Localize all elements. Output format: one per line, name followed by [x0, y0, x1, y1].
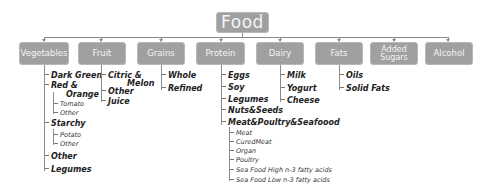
- protein-eggs: Eggs: [222, 72, 250, 80]
- category-label: Grains: [147, 49, 174, 58]
- grains-whole: Whole: [162, 72, 196, 80]
- protein-organ: Organ: [230, 148, 256, 155]
- category-label: Alcohol: [434, 49, 465, 58]
- category-label: Dairy: [269, 49, 292, 58]
- protein-seafood-low: Sea Food Low n-3 fatty acids: [230, 177, 330, 184]
- tree-line-fruit: [101, 65, 102, 102]
- fats-oils: Oils: [340, 72, 363, 80]
- protein-meat-group: Meat&Poultry&Seafoood: [222, 119, 340, 127]
- category-grains: Grains: [137, 42, 185, 65]
- grains-refined: Refined: [162, 85, 202, 93]
- category-fruit: Fruit: [78, 42, 126, 65]
- connector-bar: [44, 37, 449, 38]
- dairy-milk: Milk: [281, 72, 306, 80]
- category-label: Fats: [330, 49, 347, 58]
- category-label: Protein: [206, 49, 236, 58]
- veg-potato: Potato: [54, 132, 81, 139]
- root-label: Food: [221, 14, 264, 31]
- root-node-food: Food: [216, 12, 269, 33]
- category-protein: Protein: [196, 42, 245, 65]
- protein-legumes: Legumes: [222, 96, 268, 104]
- protein-seafood-high: Sea Food High n-3 fatty acids: [230, 167, 332, 174]
- veg-dark-green: Dark Green: [45, 72, 102, 80]
- veg-legumes: Legumes: [45, 166, 91, 174]
- veg-red-other: Other: [54, 110, 78, 117]
- veg-starchy-other: Other: [54, 141, 78, 148]
- veg-red-orange-2: Orange: [66, 91, 99, 99]
- category-vegetables: Vegetables: [19, 42, 69, 65]
- protein-soy: Soy: [222, 84, 244, 92]
- category-label: Added Sugars: [377, 46, 411, 61]
- veg-tomato: Tomato: [54, 101, 84, 108]
- category-label: Vegetables: [21, 49, 68, 58]
- veg-red-orange: Red &: [45, 82, 78, 90]
- protein-nuts-seeds: Nuts&Seeds: [222, 107, 283, 115]
- veg-starchy: Starchy: [45, 120, 86, 128]
- veg-other: Other: [45, 153, 77, 161]
- protein-cured-meat: CuredMeat: [230, 139, 272, 146]
- fruit-other: Other: [102, 88, 134, 96]
- dairy-yogurt: Yogurt: [281, 85, 316, 93]
- fruit-juice: Juice: [102, 98, 130, 106]
- fats-solid-fats: Solid Fats: [340, 85, 390, 93]
- category-alcohol: Alcohol: [425, 42, 473, 65]
- dairy-cheese: Cheese: [281, 97, 320, 105]
- category-dairy: Dairy: [256, 42, 304, 65]
- category-fats: Fats: [315, 42, 363, 65]
- protein-meat: Meat: [230, 130, 252, 137]
- category-label: Fruit: [93, 49, 112, 58]
- category-added-sugars: Added Sugars: [370, 42, 418, 65]
- protein-poultry: Poultry: [230, 157, 259, 164]
